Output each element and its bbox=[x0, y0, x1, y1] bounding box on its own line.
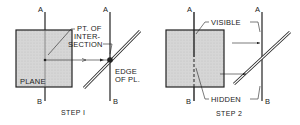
step2-plane bbox=[166, 30, 224, 87]
step1-section-leader bbox=[103, 44, 112, 54]
step2-visible-label: VISIBLE bbox=[211, 18, 241, 27]
step1-plane-label: PLANE bbox=[20, 77, 46, 86]
step2-group: A B A B VISIBLE HIDDEN STEP 2 bbox=[166, 5, 290, 117]
step2-visible-leader-right bbox=[250, 22, 260, 32]
step1-label-a: A bbox=[38, 5, 43, 14]
step2-label-a: A bbox=[187, 5, 192, 14]
step1-label-b: B bbox=[37, 97, 42, 106]
step1-edge-intersection bbox=[107, 57, 113, 63]
step2-proj-label-a: A bbox=[255, 5, 260, 14]
step1-proj-label-a: A bbox=[103, 5, 108, 14]
step1-arrow-icon-2 bbox=[100, 59, 104, 62]
step1-proj-label-b: B bbox=[113, 97, 118, 106]
step2-hidden-leader-right bbox=[250, 86, 260, 99]
step1-pt-label-3: SECTION bbox=[68, 40, 103, 49]
step2-caption: STEP 2 bbox=[216, 110, 242, 117]
step1-caption: STEP I bbox=[61, 109, 85, 116]
step2-label-b: B bbox=[186, 97, 191, 106]
step2-hidden-label: HIDDEN bbox=[211, 95, 241, 104]
step1-intersection-dot bbox=[44, 59, 47, 62]
diagram-canvas: A B A B PLANE PT. OF INTER- SECTION EDGE… bbox=[0, 0, 300, 125]
step1-edge-label-2: OF PL. bbox=[115, 75, 140, 84]
step1-group: A B A B PLANE PT. OF INTER- SECTION EDGE… bbox=[16, 5, 140, 116]
step2-proj-label-b: B bbox=[265, 97, 270, 106]
